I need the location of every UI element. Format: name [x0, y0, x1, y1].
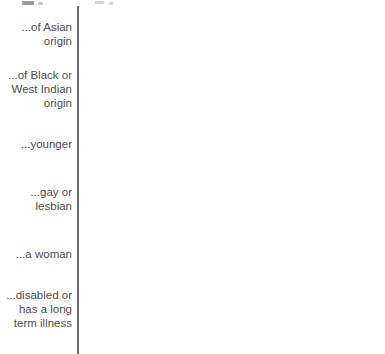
plot-area: ...of Asian origin91%73%...of Black or W…	[0, 0, 385, 354]
bar-value-label: 73%	[279, 39, 302, 51]
bar-value-label: 83%	[311, 126, 334, 138]
bar-item[interactable]: 90%	[78, 286, 361, 308]
bar-item[interactable]: 63%	[78, 144, 276, 166]
bar-group: ...of Black or West Indian origin92%74%	[0, 66, 385, 111]
bar-item[interactable]: 94%	[78, 231, 373, 253]
bar-item[interactable]: 83%	[78, 121, 339, 143]
bar-group: ...gay or lesbian90%78%	[0, 176, 385, 221]
bar-value-label: 78%	[295, 204, 318, 216]
bar-value-label: 86%	[320, 259, 343, 271]
bar-item[interactable]: 91%	[78, 11, 364, 33]
bar-value-label: 92%	[339, 71, 362, 83]
bar-group: ...younger83%63%	[0, 121, 385, 166]
bar-group: ...disabled or has a long term illness90…	[0, 286, 385, 331]
bar-item[interactable]: 92%	[78, 66, 367, 88]
bar-item[interactable]: 90%	[78, 176, 361, 198]
bar-item[interactable]: 73%	[78, 34, 307, 56]
category-label: ...of Black or West Indian origin	[0, 68, 72, 110]
bar-value-label: 63%	[248, 149, 271, 161]
bar-value-label: 74%	[282, 94, 305, 106]
category-label: ...of Asian origin	[0, 20, 72, 48]
bar-item[interactable]: 78%	[78, 199, 323, 221]
bar-value-label: 77%	[292, 314, 315, 326]
bar-group: ...of Asian origin91%73%	[0, 11, 385, 56]
category-label: ...disabled or has a long term illness	[0, 288, 72, 330]
category-label: ...gay or lesbian	[0, 185, 72, 213]
bar-item[interactable]: 86%	[78, 254, 348, 276]
bar-chart: ...of Asian origin91%73%...of Black or W…	[0, 0, 385, 354]
bar-value-label: 91%	[336, 16, 359, 28]
bar-group: ...a woman94%86%	[0, 231, 385, 276]
bar-item[interactable]: 74%	[78, 89, 310, 111]
category-label: ...younger	[0, 137, 72, 151]
bar-value-label: 90%	[333, 291, 356, 303]
bar-value-label: 94%	[345, 236, 368, 248]
bar-value-label: 90%	[333, 181, 356, 193]
category-label: ...a woman	[0, 247, 72, 261]
bar-item[interactable]: 77%	[78, 309, 320, 331]
